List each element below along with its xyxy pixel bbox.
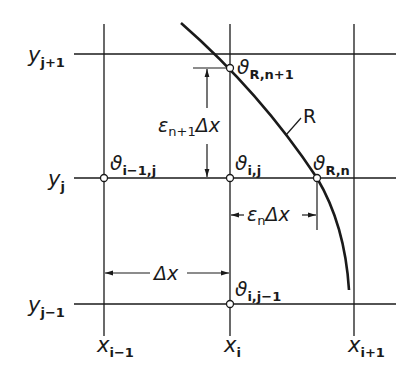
label-x-i-minus-1: xi−1 bbox=[96, 333, 134, 360]
finite-difference-grid-diagram: yj+1 yj yj−1 xi−1 xi xi+1 ϑi−1,j ϑi,j ϑi… bbox=[0, 0, 415, 370]
label-theta-r-n: ϑR,n bbox=[313, 151, 350, 178]
label-x-i-plus-1: xi+1 bbox=[347, 333, 385, 360]
label-dx: Δx bbox=[152, 262, 179, 284]
label-y-j-minus-1: yj−1 bbox=[27, 293, 65, 320]
label-boundary-r: R bbox=[303, 105, 316, 127]
label-theta-i-minus-1-j: ϑi−1,j bbox=[110, 151, 156, 178]
node-i-minus-1-j bbox=[101, 175, 108, 182]
label-y-j: yj bbox=[47, 167, 65, 194]
label-theta-i-j-minus-1: ϑi,j−1 bbox=[235, 277, 281, 304]
node-i-j bbox=[227, 175, 234, 182]
node-r-n-plus-1 bbox=[227, 65, 234, 72]
boundary-label-leader bbox=[286, 118, 301, 135]
label-theta-r-n-plus-1: ϑR,n+1 bbox=[237, 55, 294, 82]
label-eps-n-plus-1-dx: εn+1Δx bbox=[158, 114, 221, 139]
grid-nodes bbox=[101, 65, 321, 308]
node-i-j-minus-1 bbox=[227, 301, 234, 308]
label-y-j-plus-1: yj+1 bbox=[27, 43, 65, 70]
node-r-n bbox=[314, 175, 321, 182]
label-x-i: xi bbox=[223, 333, 241, 360]
label-eps-n-dx: εnΔx bbox=[247, 203, 291, 228]
label-theta-i-j: ϑi,j bbox=[235, 151, 261, 178]
